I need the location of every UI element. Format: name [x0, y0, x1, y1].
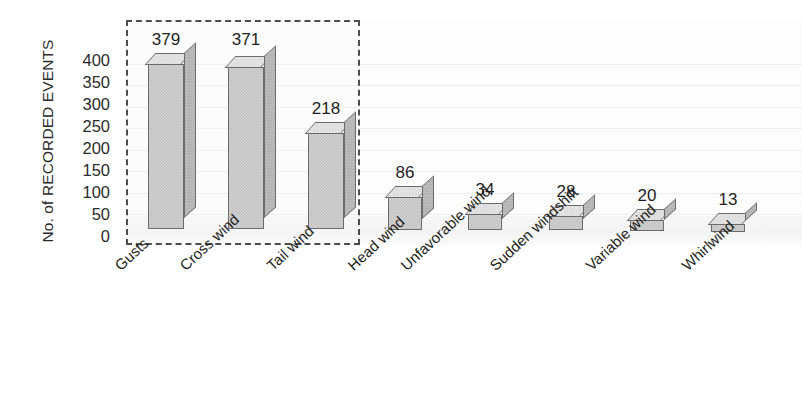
bar-front-face [228, 67, 264, 229]
bar-value-label: 218 [295, 100, 357, 117]
bar-side-face [422, 175, 434, 219]
bar-front-face [468, 214, 502, 230]
bars-layer: 379 371 218 86 34 [0, 0, 804, 399]
bar-value-label: 379 [135, 31, 197, 48]
bar-side-face [344, 111, 356, 218]
bar-front-face [148, 64, 184, 229]
bar-chart: No. of RECORDED EVENTS 400 350 300 250 2… [0, 0, 804, 399]
bar-side-face [264, 45, 276, 218]
bar-value-label: 13 [699, 191, 757, 208]
bar-value-label: 371 [215, 31, 277, 48]
bar-value-label: 86 [376, 164, 434, 181]
bar-front-face [308, 133, 344, 229]
bar-side-face [184, 42, 196, 218]
